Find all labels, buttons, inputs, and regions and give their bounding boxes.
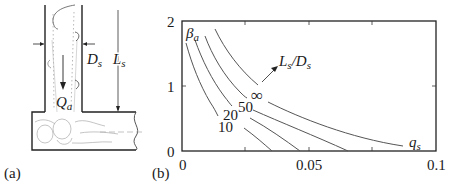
swirl-arrow-icon xyxy=(48,60,51,68)
y-tick-label: 1 xyxy=(167,79,175,95)
curve-50 xyxy=(205,36,247,98)
x-tick-label: 0.05 xyxy=(296,157,322,173)
arrowhead-icon xyxy=(40,42,44,46)
horizontal-pipe-outline xyxy=(32,112,136,150)
curve-20-lower xyxy=(250,118,300,151)
y-axis-label: βa xyxy=(185,25,199,43)
curve-infinity-lower xyxy=(268,102,403,146)
panel-a-label: (a) xyxy=(4,165,21,182)
parameter-label: Ls/Ds xyxy=(278,53,311,71)
turbulent-eddies xyxy=(35,119,142,144)
flow-label: Qa xyxy=(56,94,73,112)
arrowhead-icon xyxy=(271,66,278,72)
panel-b-chart: 2 1 0 0 0.05 0.1 10 20 50 ∞ xyxy=(152,14,446,182)
arrowhead-icon xyxy=(83,42,87,46)
curve-label-20: 20 xyxy=(223,107,238,123)
y-tick-label: 2 xyxy=(167,14,175,30)
swirl-arrow-icon xyxy=(75,80,79,89)
curve-infinity xyxy=(215,29,258,85)
air-core-right-wall xyxy=(74,40,77,112)
panel-a-diagram: Ds Ls Qa (a) xyxy=(4,5,142,182)
pipe-break-icon xyxy=(134,112,138,150)
inflow-swirl-icon xyxy=(53,5,75,29)
panel-b-label: (b) xyxy=(152,165,170,182)
figure: Ds Ls Qa (a) xyxy=(0,0,457,187)
x-axis-label: qs xyxy=(409,134,421,152)
length-label: Ls xyxy=(112,51,126,69)
swirl-arrow-icon xyxy=(75,32,79,41)
arrowhead-icon xyxy=(60,82,66,90)
curve-label-infinity: ∞ xyxy=(251,86,263,105)
arrowhead-icon xyxy=(116,106,120,112)
curve-10-lower xyxy=(244,128,272,151)
x-tick-label: 0 xyxy=(179,157,187,173)
y-tick-label: 0 xyxy=(167,144,175,160)
x-tick-label: 0.1 xyxy=(427,157,446,173)
diameter-label: Ds xyxy=(86,51,102,69)
curve-50-lower xyxy=(253,110,348,151)
